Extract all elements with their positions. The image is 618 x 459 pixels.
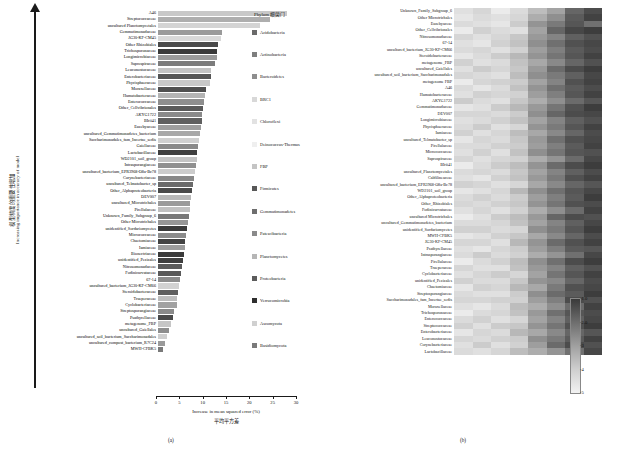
bar <box>158 125 201 130</box>
bar <box>158 49 217 54</box>
bar <box>158 239 185 244</box>
heatmap-row-label: metagenome FBP <box>334 80 454 84</box>
bar <box>158 321 171 326</box>
heatmap-row-label: Unknown_Family_Subgroup_6 <box>334 9 454 13</box>
heatmap-row-label: uncultured_bacterium_EPR3968-O8a-Bc78 <box>334 183 454 187</box>
x-axis-tick <box>226 396 227 399</box>
heatmap-cell <box>547 348 566 354</box>
bar-label: Intrasporangiaceae <box>44 163 158 167</box>
heatmap-row-label: Other_Alphaproteobacteria <box>334 195 454 199</box>
heatmap-cell <box>491 348 510 354</box>
bar <box>158 296 177 301</box>
bar-label: Steroidobacteraceae <box>44 290 158 294</box>
legend-swatch-icon <box>252 52 257 57</box>
bar-label: Euzebyaceae <box>44 125 158 129</box>
heatmap-row-label: Saprospiraceae <box>334 157 454 161</box>
bar <box>158 93 205 98</box>
bar-label: Psathyrellaceae <box>44 316 158 320</box>
legend-item[interactable]: Patescibacteria <box>252 223 334 245</box>
legend-item[interactable]: Actinobacteria <box>252 43 334 65</box>
legend-item[interactable]: Basidiomycota <box>252 334 334 356</box>
legend-item[interactable]: Chloroflexi <box>252 111 334 133</box>
bar <box>158 220 188 225</box>
legend-swatch-icon <box>252 321 257 326</box>
legend-item[interactable]: Bacteroidetes <box>252 66 334 88</box>
x-axis-tick-label: 10 <box>200 400 205 405</box>
bar-label: uncultured_compost_bacterium_R7C24 <box>44 341 158 345</box>
legend-item[interactable]: FBP <box>252 155 334 177</box>
legend-item[interactable]: Proteobacteria <box>252 267 334 289</box>
bar <box>158 302 177 307</box>
legend-item[interactable]: Planctomycetes <box>252 245 334 267</box>
bar <box>158 341 165 346</box>
bar-label: Unknown_Family_Subgroup_6 <box>44 214 158 218</box>
heatmap-row-label: Moraxellaceae <box>334 305 454 309</box>
bar <box>158 347 163 352</box>
heatmap-row-label: uncultured_Gaiellales <box>334 67 454 71</box>
bar-label: uncultured_soil_bacterium_Saccharimonada… <box>44 335 158 339</box>
bar <box>158 245 185 250</box>
bar-label: Leuconostocaceae <box>44 68 158 72</box>
phylum-legend-title: Phylum 细菌门 <box>252 10 334 17</box>
colorbar-tick-label: -3 <box>580 343 584 348</box>
x-axis-tick-label: 0 <box>155 400 157 405</box>
bar-label: Streptosporangiaceae <box>44 309 158 313</box>
bar <box>158 87 206 92</box>
x-axis-tick <box>249 396 250 399</box>
heatmap-row-label: uncultured_Planctomycetales <box>334 170 454 174</box>
legend-item[interactable]: Acidobacteria <box>252 21 334 43</box>
legend-swatch-icon <box>252 186 257 191</box>
heatmap-row-label: uncultured_Gemmatimonadetes_bacterium <box>334 221 454 225</box>
legend-swatch-icon <box>252 30 257 35</box>
heatmap-row-label: uncultured_soil_bacterium_Saccharimonada… <box>334 73 454 77</box>
legend-swatch-icon <box>252 119 257 124</box>
heatmap-row-label: Longimicrobiaceae <box>334 118 454 122</box>
bar-label: 67-14 <box>44 278 158 282</box>
bar-label: Gemmatimonadaceae <box>44 30 158 34</box>
legend-item[interactable]: Ascomycota <box>252 312 334 334</box>
heatmap-row-label: uncultured_Telmatobacter_sp <box>334 138 454 142</box>
heatmap-row-label: Trichosporonaceae <box>334 311 454 315</box>
bar-label: Phycisphaeraceae <box>44 81 158 85</box>
heatmap-cell <box>510 348 529 354</box>
legend-label: Basidiomycota <box>260 343 286 348</box>
heatmap-row: Lactobacillaceae <box>334 348 602 354</box>
heatmap-cell <box>528 348 547 354</box>
legend-item[interactable]: Firmicutes <box>252 178 334 200</box>
panel-b-label: (b) <box>460 437 466 443</box>
heatmap-row-label: Enterococcaceae <box>334 317 454 321</box>
bar <box>158 157 197 162</box>
bar-label: Trichosporonaceae <box>44 49 158 53</box>
heatmap-row-label: uncultured Microtrichales <box>334 215 454 219</box>
legend-label: Deinococcus-Thermus <box>260 142 300 147</box>
bar-label: Other Rhizobiales <box>44 43 158 47</box>
bar <box>158 23 260 28</box>
bar <box>158 264 182 269</box>
bar-label: uncultured Planctomycetales <box>44 24 158 28</box>
colorbar-tick-label: -4 <box>580 366 584 371</box>
heatmap-row-label: Phycisphaeraceae <box>334 125 454 129</box>
x-axis-tick-label: 15 <box>224 400 229 405</box>
bar <box>158 176 194 181</box>
bar <box>158 163 196 168</box>
legend-item[interactable]: BRC1 <box>252 88 334 110</box>
heatmap-row-label: MWH-CFBK5 <box>334 234 454 238</box>
bar <box>158 201 190 206</box>
legend-swatch-icon <box>252 231 257 236</box>
legend-item[interactable]: Verrucomicrobia <box>252 290 334 312</box>
bar-label: Saccharimonadales_fam_Incertae_sedis <box>44 138 158 142</box>
legend-item[interactable]: Gemmatimonadetes <box>252 200 334 222</box>
heatmap-row-label: metagenome_FBP <box>334 61 454 65</box>
legend-label: FBP <box>260 164 268 169</box>
heatmap-row-label: Caldilineaceae <box>334 176 454 180</box>
legend-swatch-icon <box>252 74 257 79</box>
bar-label: Fodinicurvataceae <box>44 271 158 275</box>
heatmap-row-label: Trueperaceae <box>334 266 454 270</box>
heatmap-row-label: Saccharimonadales_fam_Incertae_sedis <box>334 298 454 302</box>
legend-item[interactable]: Deinococcus-Thermus <box>252 133 334 155</box>
bar <box>158 138 199 143</box>
phylum-legend: Phylum 细菌门 AcidobacteriaActinobacteriaBa… <box>252 10 334 357</box>
legend-label: Bacteroidetes <box>260 74 284 79</box>
heatmap-row-label: Fodinicurvataceae <box>334 208 454 212</box>
heatmap-row-label: Pirellulaceae <box>334 260 454 264</box>
